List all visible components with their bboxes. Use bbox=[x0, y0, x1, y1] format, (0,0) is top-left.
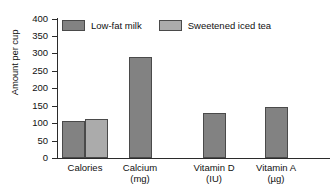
legend-swatch-sweetened-iced-tea bbox=[159, 20, 182, 31]
legend-entry-low-fat-milk: Low-fat milk bbox=[62, 20, 142, 31]
y-tick-mark bbox=[52, 158, 57, 159]
x-axis-label: Calcium(mg) bbox=[100, 162, 180, 184]
y-axis-title: Amount per cup bbox=[9, 0, 20, 128]
x-axis-label: Vitamin A(µg) bbox=[236, 162, 316, 184]
bar-chart: Amount per cup 050100150200250300350400 … bbox=[0, 0, 335, 195]
chart-legend: Low-fat milk Sweetened iced tea bbox=[62, 20, 271, 31]
bar bbox=[62, 121, 85, 158]
y-tick-label: 150 bbox=[32, 101, 48, 111]
y-tick-label: 250 bbox=[32, 66, 48, 76]
y-tick-mark bbox=[52, 88, 57, 89]
bar bbox=[203, 113, 226, 158]
x-axis-line bbox=[57, 158, 330, 159]
y-tick-label: 350 bbox=[32, 31, 48, 41]
legend-swatch-low-fat-milk bbox=[62, 20, 85, 31]
y-tick-mark bbox=[52, 123, 57, 124]
y-tick-mark bbox=[52, 141, 57, 142]
y-tick-mark bbox=[52, 106, 57, 107]
y-tick-mark bbox=[52, 53, 57, 54]
legend-entry-sweetened-iced-tea: Sweetened iced tea bbox=[159, 20, 271, 31]
y-tick-label: 300 bbox=[32, 48, 48, 58]
y-tick-mark bbox=[52, 71, 57, 72]
y-tick-label: 100 bbox=[32, 118, 48, 128]
y-axis-line bbox=[57, 18, 58, 159]
y-tick-mark bbox=[52, 36, 57, 37]
legend-label-sweetened-iced-tea: Sweetened iced tea bbox=[188, 20, 271, 31]
y-tick-label: 400 bbox=[32, 14, 48, 24]
bar bbox=[85, 119, 108, 158]
bar bbox=[265, 107, 288, 158]
y-tick-label: 50 bbox=[37, 136, 48, 146]
legend-label-low-fat-milk: Low-fat milk bbox=[91, 20, 142, 31]
y-tick-label: 200 bbox=[32, 83, 48, 93]
bar bbox=[129, 57, 152, 158]
y-tick-mark bbox=[52, 19, 57, 20]
